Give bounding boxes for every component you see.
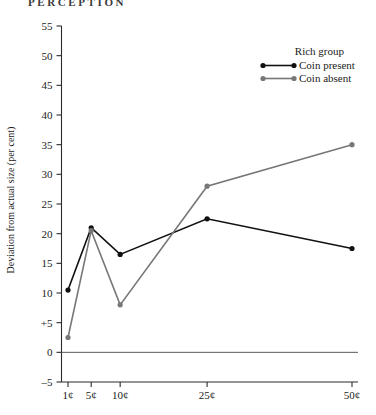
data-point	[349, 142, 354, 147]
y-tick-label: 50	[42, 50, 54, 62]
line-chart: Deviation from actual size (per cent) –5…	[0, 0, 376, 415]
legend-marker	[260, 63, 265, 68]
y-axis-title: Deviation from actual size (per cent)	[5, 127, 17, 274]
x-tick-label: 50¢	[344, 389, 361, 401]
y-tick-label: +5	[41, 317, 53, 329]
x-tick-label: 25¢	[199, 389, 216, 401]
data-point	[89, 228, 94, 233]
series-line	[68, 145, 352, 338]
y-tick-label: 20	[42, 228, 54, 240]
legend-marker	[291, 76, 296, 81]
x-tick-label: 5¢	[86, 389, 97, 401]
y-axis-title-group: Deviation from actual size (per cent)	[5, 127, 17, 274]
y-tick-label: 55	[42, 20, 54, 32]
series-2	[65, 142, 354, 340]
chart-container: Deviation from actual size (per cent) –5…	[0, 0, 376, 415]
legend-label-1: Coin present	[299, 59, 355, 71]
x-tick-label: 1¢	[63, 389, 74, 401]
series-1	[65, 216, 354, 292]
data-series-layer	[65, 142, 354, 340]
legend-marker	[260, 76, 265, 81]
legend-marker	[291, 63, 296, 68]
y-tick-label: 0	[47, 346, 53, 358]
y-tick-label: 35	[42, 139, 54, 151]
y-tick-label: –5	[41, 376, 54, 388]
data-point	[65, 287, 70, 292]
legend-label-2: Coin absent	[299, 72, 351, 84]
y-tick-label: 30	[42, 168, 54, 180]
legend-title: Rich group	[295, 45, 345, 57]
data-point	[205, 216, 210, 221]
y-axis-ticks: –50+510152025303540455055	[41, 20, 62, 388]
x-tick-label: 10¢	[112, 389, 129, 401]
y-tick-label: 15	[42, 257, 54, 269]
data-point	[118, 252, 123, 257]
data-point	[118, 302, 123, 307]
figure-page: PERCEPTION Deviation from actual size (p…	[0, 0, 376, 415]
y-tick-label: 25	[42, 198, 54, 210]
data-point	[205, 184, 210, 189]
data-point	[65, 335, 70, 340]
x-axis-ticks: 1¢5¢10¢25¢50¢	[63, 382, 361, 401]
y-tick-label: 45	[42, 79, 54, 91]
y-tick-label: 40	[42, 109, 54, 121]
data-point	[349, 246, 354, 251]
y-tick-label: 10	[42, 287, 54, 299]
chart-legend: Rich groupCoin presentCoin absent	[260, 45, 355, 84]
